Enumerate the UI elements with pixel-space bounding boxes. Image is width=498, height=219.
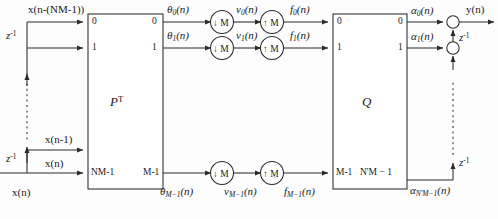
theta-m1-label: θM−1(n) [160, 186, 193, 198]
v-0-label: v0(n) [236, 4, 257, 16]
synthesis-out-port-last: N'M − 1 [360, 168, 392, 178]
analysis-block-label: PT [110, 95, 123, 108]
output-delay-top-label: z-1 [459, 32, 470, 43]
synthesis-out-port-0: 0 [398, 17, 403, 27]
alpha-0-label: α0(n) [411, 5, 433, 17]
analysis-out-port-0: 0 [152, 17, 157, 27]
analysis-out-port-last: M-1 [143, 168, 159, 178]
output-y-label: y(n) [466, 4, 484, 15]
v-1-label: v1(n) [236, 30, 257, 42]
synthesis-in-port-last: M-1 [336, 168, 352, 178]
f-m1-label: fM−1(n) [284, 186, 315, 198]
input-source-label: x(n) [12, 187, 30, 198]
analysis-in-port-last: NM-1 [91, 168, 114, 178]
input-top-tap-label: x(n-(NM-1)) [28, 4, 84, 15]
synthesis-out-port-1: 1 [398, 43, 403, 53]
f-1-label: f1(n) [290, 30, 310, 42]
upsampler-1-label: ↑ M [263, 44, 279, 54]
input-x-n-branch-label: x(n) [45, 158, 63, 169]
theta-1-label: θ1(n) [167, 30, 189, 42]
synthesis-in-port-1: 1 [337, 43, 342, 53]
delay-lower-label: z-1 [6, 153, 17, 164]
alpha-last-label: αN'M−1(n) [410, 185, 450, 197]
synthesis-in-port-0: 0 [337, 17, 342, 27]
upsampler-m1-label: ↑ M [263, 169, 279, 179]
analysis-in-port-1: 1 [92, 43, 97, 53]
alpha-1-label: α1(n) [411, 31, 433, 43]
downsampler-1-label: ↓ M [213, 44, 229, 54]
downsampler-m1-label: ↓ M [213, 169, 229, 179]
analysis-out-port-1: 1 [152, 43, 157, 53]
theta-0-label: θ0(n) [167, 4, 189, 16]
output-delay-bottom-label: z-1 [459, 157, 470, 168]
delay-upper-label: z-1 [6, 30, 17, 41]
f-0-label: f0(n) [290, 4, 310, 16]
upsampler-0-label: ↑ M [263, 18, 279, 28]
synthesis-block-label: Q [362, 95, 371, 108]
input-second-tap-label: x(n-1) [45, 134, 73, 145]
analysis-in-port-0: 0 [92, 17, 97, 27]
block-diagram-canvas: x(n-(NM-1)) z-1 x(n-1) z-1 x(n) x(n) PT … [0, 0, 498, 219]
v-m1-label: vM−1(n) [224, 186, 257, 198]
downsampler-0-label: ↓ M [213, 18, 229, 28]
